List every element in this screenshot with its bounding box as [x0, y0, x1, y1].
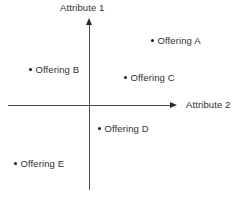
data-point-offering-d: Offering D — [98, 123, 149, 134]
y-axis-arrow-icon — [86, 18, 92, 25]
x-axis-arrow-icon — [170, 102, 177, 108]
y-axis-title: Attribute 1 — [60, 2, 104, 13]
data-point-offering-b: Offering B — [29, 64, 80, 75]
data-point-label: Offering E — [21, 158, 65, 169]
data-point-label: Offering C — [131, 72, 175, 83]
data-point-offering-a: Offering A — [151, 35, 201, 46]
data-point-dot-icon — [29, 68, 32, 71]
y-axis-line — [89, 24, 90, 190]
data-point-label: Offering B — [36, 64, 80, 75]
data-point-label: Offering A — [158, 35, 201, 46]
data-point-dot-icon — [98, 127, 101, 130]
data-point-offering-c: Offering C — [124, 72, 175, 83]
data-point-dot-icon — [14, 162, 17, 165]
perceptual-map-chart: Attribute 1 Attribute 2 Offering A Offer… — [0, 0, 247, 198]
x-axis-line — [8, 105, 175, 106]
x-axis-title: Attribute 2 — [186, 99, 230, 110]
data-point-dot-icon — [124, 76, 127, 79]
data-point-label: Offering D — [105, 123, 149, 134]
data-point-offering-e: Offering E — [14, 158, 65, 169]
data-point-dot-icon — [151, 39, 154, 42]
